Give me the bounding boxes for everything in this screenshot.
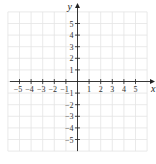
x-tick-label: −2: [49, 85, 58, 94]
x-tick-label: −4: [25, 85, 34, 94]
coordinate-plane: −5−4−3−2−112345 −5−4−3−2−112345 x y: [0, 0, 156, 164]
axes: [10, 3, 155, 151]
x-tick-label: 4: [122, 85, 126, 94]
y-tick-label: 4: [70, 31, 74, 40]
y-tick-label: −4: [65, 124, 74, 133]
y-tick-label: −1: [65, 89, 74, 98]
x-tick-label: 5: [134, 85, 138, 94]
y-tick-label: 5: [70, 20, 74, 29]
x-axis-label: x: [150, 83, 156, 94]
x-tick-label: 3: [110, 85, 114, 94]
y-axis-label: y: [67, 1, 73, 12]
y-axis-arrow-icon: [75, 3, 80, 8]
y-tick-label: 3: [70, 43, 74, 52]
y-tick-label: −5: [65, 136, 74, 145]
y-tick-label: 1: [70, 66, 74, 75]
x-tick-label: −3: [37, 85, 46, 94]
y-tick-label: −2: [65, 101, 74, 110]
x-tick-label: 1: [87, 85, 91, 94]
x-tick-label: 2: [99, 85, 103, 94]
y-tick-label: −3: [65, 112, 74, 121]
x-tick-label: −5: [14, 85, 23, 94]
y-tick-label: 2: [70, 54, 74, 63]
